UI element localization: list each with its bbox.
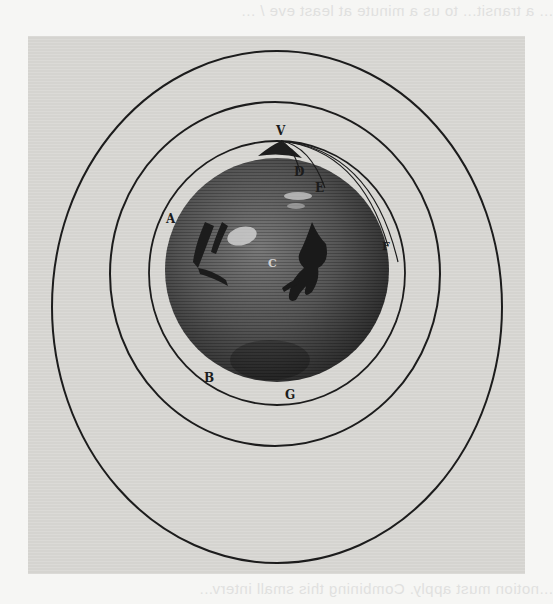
label-F: F: [382, 241, 390, 252]
bleed-through-text-bottom: ...notion must apply. Combining this sma…: [0, 580, 553, 597]
cannonball-diagram: [0, 0, 553, 604]
page: ... a transit... to us a minute at least…: [0, 0, 553, 604]
label-C: C: [268, 258, 277, 269]
label-A: A: [166, 213, 175, 225]
label-G: G: [285, 389, 295, 401]
label-E: E: [315, 182, 324, 194]
label-V: V: [276, 125, 285, 137]
label-B: B: [204, 372, 214, 384]
earth-globe: [165, 141, 389, 382]
label-D: D: [294, 166, 304, 178]
